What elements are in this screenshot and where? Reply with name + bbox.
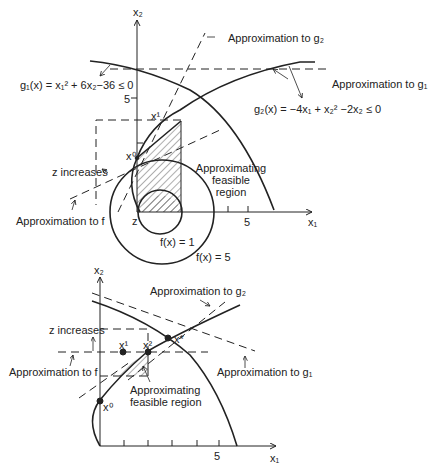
xstar-label-bottom: x* — [174, 333, 184, 345]
g1-label-top: g₁(x) = x₁² + 6x₂−36 ≤ 0 — [20, 79, 133, 91]
approx-g1-label-bottom: Approximation to g₁ — [217, 366, 312, 378]
x0-point-label-top: x⁰ — [126, 150, 136, 162]
x1-point-label-top: x¹ — [151, 110, 160, 122]
approx-region-line2-bottom: feasible region — [130, 396, 202, 408]
approx-region-line2: feasible — [186, 174, 276, 186]
g2-label-top: g₂(x) = −4x₁ + x₂² −2x₂ ≤ 0 — [254, 103, 381, 115]
x1-axis-label-bottom: x₁ — [270, 452, 279, 464]
approx-region-line1: Approximating — [186, 162, 276, 174]
z-increases-label-top: z increases — [52, 166, 108, 178]
approx-f-label-bottom: Approximation to f — [9, 366, 98, 378]
bottom-diagram — [58, 277, 276, 446]
z-label-top: z — [132, 215, 138, 227]
diagram-canvas — [0, 0, 432, 469]
tick-y-5-top: 5 — [124, 93, 130, 105]
x0-point-label-bottom: x⁰ — [103, 401, 113, 413]
f1-label: f(x) = 1 — [160, 236, 195, 248]
x2-axis-label-top: x₂ — [133, 6, 143, 18]
f5-label: f(x) = 5 — [196, 251, 231, 263]
x1-point-label-bottom: x¹ — [119, 339, 128, 351]
approx-region-label-top: Approximating feasible region — [186, 162, 276, 198]
tick-x-5-bottom: 5 — [214, 450, 220, 462]
approx-g2-label-bottom: Approximation to g₂ — [150, 285, 246, 297]
tick-x-5-top: 5 — [244, 216, 250, 228]
approx-region-label-bottom: Approximating feasible region — [130, 384, 202, 408]
x1-axis-label-top: x₁ — [308, 216, 317, 228]
approx-region-line1-bottom: Approximating — [130, 384, 202, 396]
approx-g1-label-top: Approximation to g₁ — [332, 78, 427, 90]
xstar-point-bottom — [165, 335, 171, 341]
z-increases-label-bottom: z increases — [49, 324, 105, 336]
top-diagram — [70, 20, 330, 264]
approx-region-line3: region — [186, 186, 276, 198]
x2-point-label-bottom: x² — [143, 339, 152, 351]
approx-g2-label-top: Approximation to g₂ — [228, 32, 324, 44]
x2-axis-label-bottom: x₂ — [94, 264, 104, 276]
approx-f-label-top: Approximation to f — [16, 215, 105, 227]
